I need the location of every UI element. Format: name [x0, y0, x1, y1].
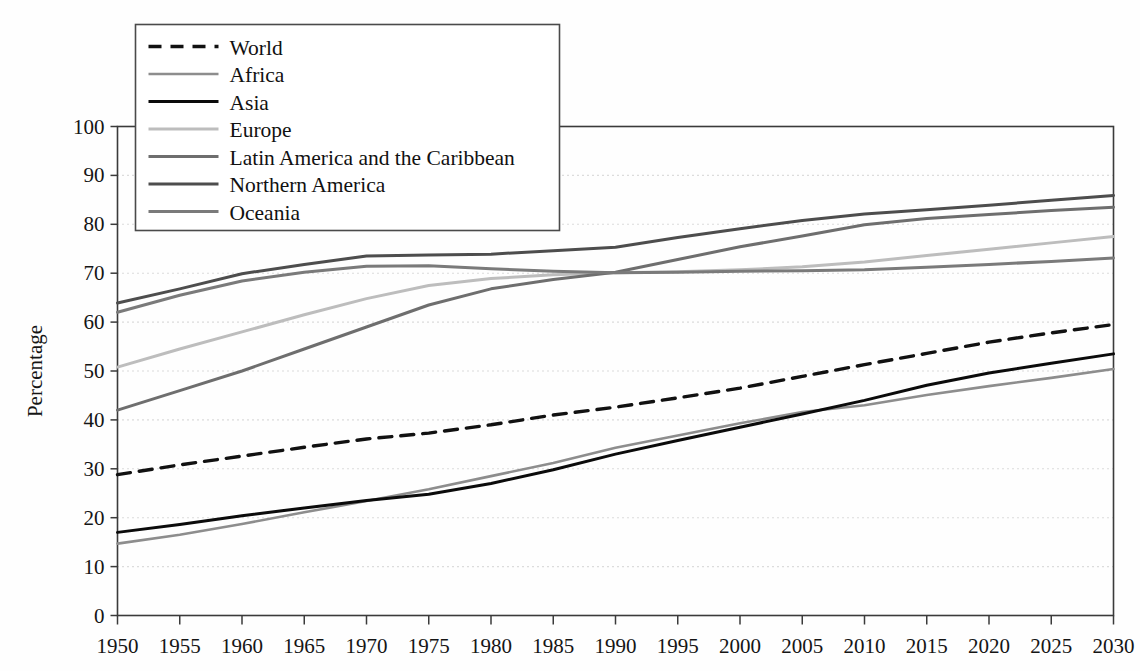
x-tick-label: 1975	[408, 634, 450, 658]
y-tick-label: 90	[84, 163, 105, 187]
series-line-latin-america-and-the-caribbean	[118, 207, 1114, 410]
series-line-europe	[118, 237, 1114, 368]
x-tick-label: 2010	[844, 634, 886, 658]
y-axis-label: Percentage	[23, 325, 47, 417]
x-tick-label: 2005	[781, 634, 823, 658]
x-tick-label: 1980	[470, 634, 512, 658]
series-line-world	[118, 325, 1114, 475]
y-tick-label: 10	[84, 555, 105, 579]
data-series	[118, 195, 1114, 543]
x-tick-label: 1970	[346, 634, 388, 658]
legend-label-northern-america: Northern America	[230, 173, 386, 197]
x-tick-label: 1960	[221, 634, 263, 658]
y-tick-label: 50	[84, 359, 105, 383]
x-tick-label: 1995	[657, 634, 699, 658]
line-chart: 0102030405060708090100 19501955196019651…	[0, 0, 1140, 671]
x-tick-label: 2020	[968, 634, 1010, 658]
x-tick-label: 1990	[595, 634, 637, 658]
x-tick-label: 2015	[906, 634, 948, 658]
x-axis-tick-labels: 1950195519601965197019751980198519901995…	[97, 634, 1135, 658]
legend-label-world: World	[230, 36, 283, 60]
x-tick-label: 1955	[159, 634, 201, 658]
legend-label-asia: Asia	[230, 91, 270, 115]
y-tick-label: 80	[84, 212, 105, 236]
x-tick-label: 1965	[283, 634, 325, 658]
y-tick-label: 60	[84, 310, 105, 334]
x-tick-label: 1950	[97, 634, 139, 658]
legend-label-oceania: Oceania	[230, 201, 301, 225]
y-tick-label: 40	[84, 408, 105, 432]
y-axis-title: Percentage	[23, 325, 47, 417]
x-tick-label: 2025	[1030, 634, 1072, 658]
y-tick-label: 20	[84, 506, 105, 530]
x-tick-label: 1985	[532, 634, 574, 658]
y-tick-label: 0	[94, 604, 105, 628]
grid-lines	[118, 175, 1114, 566]
series-line-oceania	[118, 258, 1114, 312]
series-line-africa	[118, 369, 1114, 544]
chart-legend: WorldAfricaAsiaEuropeLatin America and t…	[136, 25, 560, 231]
y-axis-tick-labels: 0102030405060708090100	[73, 115, 105, 628]
chart-figure: 0102030405060708090100 19501955196019651…	[0, 0, 1140, 671]
x-tick-label: 2000	[719, 634, 761, 658]
legend-label-africa: Africa	[230, 63, 285, 87]
y-tick-label: 70	[84, 261, 105, 285]
legend-label-europe: Europe	[230, 118, 292, 142]
y-tick-label: 30	[84, 457, 105, 481]
y-tick-label: 100	[73, 115, 105, 139]
legend-label-latin-america-and-the-caribbean: Latin America and the Caribbean	[230, 146, 516, 170]
series-line-asia	[118, 354, 1114, 532]
x-tick-label: 2030	[1093, 634, 1135, 658]
